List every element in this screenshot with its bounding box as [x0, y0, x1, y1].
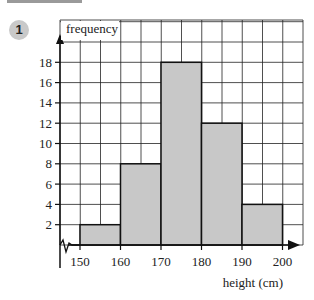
histogram-bar-180-190 — [202, 123, 243, 245]
y-axis-title: frequency — [66, 21, 118, 36]
y-tick-label: 6 — [46, 177, 53, 192]
histogram-bars — [80, 62, 283, 245]
x-tick-label: 190 — [232, 254, 252, 269]
y-tick-label: 14 — [39, 95, 53, 110]
x-tick-label: 160 — [111, 254, 131, 269]
x-axis-title: height (cm) — [223, 275, 283, 290]
histogram-bar-190-200 — [242, 204, 283, 245]
x-axis-arrow-icon — [288, 240, 300, 250]
y-tick-label: 12 — [39, 116, 52, 131]
x-tick-label: 200 — [273, 254, 293, 269]
histogram-bar-170-180 — [161, 62, 202, 245]
y-tick-label: 10 — [39, 136, 52, 151]
x-tick-label: 180 — [192, 254, 212, 269]
y-tick-label: 2 — [46, 217, 53, 232]
histogram-chart: 24681012141618150160170180190200frequenc… — [0, 0, 314, 300]
histogram-bar-150-160 — [80, 225, 121, 245]
x-tick-label: 170 — [151, 254, 171, 269]
y-tick-label: 18 — [39, 55, 52, 70]
histogram-bar-160-170 — [121, 164, 162, 245]
axis-break-icon — [60, 240, 80, 252]
y-tick-label: 16 — [39, 75, 53, 90]
y-tick-label: 4 — [46, 197, 53, 212]
x-tick-label: 150 — [70, 254, 90, 269]
y-tick-label: 8 — [46, 156, 53, 171]
